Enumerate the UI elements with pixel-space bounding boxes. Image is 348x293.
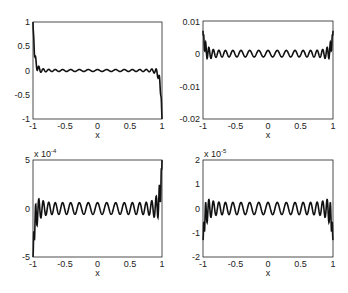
xtick: 1 bbox=[330, 259, 335, 269]
ytick: -0.5 bbox=[14, 90, 30, 100]
xtick: 0.5 bbox=[124, 259, 137, 269]
plot-top-left: 1 0.5 0 -0.5 -1 -1 -0.5 0 0.5 1 x bbox=[14, 17, 164, 140]
exponent-label-bottom-left: x 10-4 bbox=[34, 148, 57, 159]
xtick: -1 bbox=[29, 259, 37, 269]
curve-top-right bbox=[203, 31, 333, 59]
ytick: -0.02 bbox=[179, 114, 200, 124]
xtick: 0.5 bbox=[294, 259, 307, 269]
plot-top-right: 0.01 0 -0.01 -0.02 -1 -0.5 0 0.5 1 x bbox=[179, 17, 335, 140]
ytick: 0 bbox=[195, 49, 200, 59]
axes-box-bottom-right bbox=[203, 160, 333, 257]
ytick: 0.01 bbox=[182, 17, 200, 27]
y-ticks-top-left: 1 0.5 0 -0.5 -1 bbox=[14, 17, 30, 124]
plot-bottom-right: x 10-5 2 1 0 -1 -2 -1 -0.5 0 0.5 1 x bbox=[192, 148, 336, 278]
xtick: 1 bbox=[330, 121, 335, 131]
ytick: 1 bbox=[195, 179, 200, 189]
xtick: 0.5 bbox=[294, 121, 307, 131]
ytick: 0.5 bbox=[17, 41, 30, 51]
xtick: -0.5 bbox=[228, 121, 244, 131]
xtick: 1 bbox=[159, 259, 164, 269]
y-ticks-top-right: 0.01 0 -0.01 -0.02 bbox=[179, 17, 200, 124]
y-ticks-bottom-left: 5 0 -5 bbox=[22, 155, 30, 262]
curve-top-left bbox=[33, 22, 162, 119]
plot-bottom-left: x 10-4 5 0 -5 -1 -0.5 0 0.5 1 x bbox=[22, 148, 165, 278]
xtick: -0.5 bbox=[57, 121, 73, 131]
ytick: 2 bbox=[195, 155, 200, 165]
xtick: -1 bbox=[29, 121, 37, 131]
x-axis-label-top-left: x bbox=[95, 130, 100, 140]
ytick: 0 bbox=[195, 204, 200, 214]
x-axis-label-top-right: x bbox=[266, 130, 271, 140]
xtick: -1 bbox=[199, 121, 207, 131]
axes-box-top-right bbox=[203, 21, 333, 119]
ytick: -1 bbox=[192, 228, 200, 238]
axes-box-bottom-left bbox=[33, 160, 162, 257]
xtick: -0.5 bbox=[57, 259, 73, 269]
xtick: -0.5 bbox=[228, 259, 244, 269]
curve-bottom-right bbox=[203, 199, 333, 240]
ytick: 5 bbox=[25, 155, 30, 165]
x-axis-label-bottom-right: x bbox=[266, 268, 271, 278]
ytick: 1 bbox=[25, 17, 30, 27]
xtick: -1 bbox=[199, 259, 207, 269]
xtick: 0.5 bbox=[124, 121, 137, 131]
ytick: 0 bbox=[25, 66, 30, 76]
figure: 1 0.5 0 -0.5 -1 -1 -0.5 0 0.5 1 x 0.01 0… bbox=[0, 0, 348, 293]
ytick: 0 bbox=[25, 204, 30, 214]
ytick: -0.01 bbox=[179, 82, 200, 92]
curve-bottom-left bbox=[33, 160, 162, 257]
x-axis-label-bottom-left: x bbox=[95, 268, 100, 278]
y-ticks-bottom-right: 2 1 0 -1 -2 bbox=[192, 155, 200, 262]
xtick: 1 bbox=[159, 121, 164, 131]
exponent-label-bottom-right: x 10-5 bbox=[204, 148, 227, 159]
